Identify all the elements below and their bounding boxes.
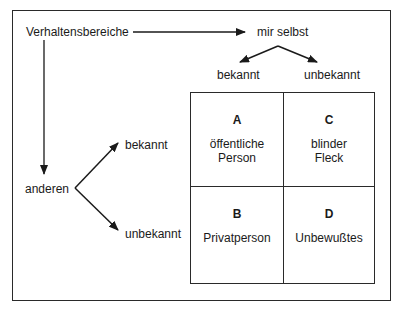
quadrant-desc-line2: Fleck [284, 151, 374, 165]
johari-grid: A öffentliche Person C blinder Fleck B P… [190, 92, 375, 284]
others-axis-label: anderen [25, 182, 69, 196]
quadrant-a: A öffentliche Person [191, 93, 284, 187]
quadrant-desc-line1: blinder [284, 137, 374, 151]
quadrant-desc-line1: Unbewußtes [284, 231, 374, 245]
quadrant-b: B Privatperson [191, 187, 284, 283]
arrow-self-known-icon [240, 46, 278, 62]
quadrant-letter: D [284, 207, 374, 221]
self-unknown-label: unbekannt [304, 68, 360, 82]
quadrant-letter: B [191, 207, 283, 221]
root-label: Verhaltensbereiche [26, 25, 129, 39]
quadrant-desc-line1: Privatperson [191, 231, 283, 245]
arrow-others-unknown-icon [75, 188, 118, 230]
quadrant-letter: A [191, 113, 283, 127]
others-unknown-label: unbekannt [125, 227, 181, 241]
quadrant-d: D Unbewußtes [284, 187, 374, 283]
arrow-others-known-icon [75, 143, 118, 188]
self-known-label: bekannt [217, 68, 260, 82]
others-known-label: bekannt [125, 138, 168, 152]
quadrant-c: C blinder Fleck [284, 93, 374, 187]
quadrant-letter: C [284, 113, 374, 127]
quadrant-desc-line1: öffentliche [191, 137, 283, 151]
quadrant-desc-line2: Person [191, 151, 283, 165]
arrow-self-unknown-icon [278, 46, 317, 62]
self-axis-label: mir selbst [257, 25, 308, 39]
